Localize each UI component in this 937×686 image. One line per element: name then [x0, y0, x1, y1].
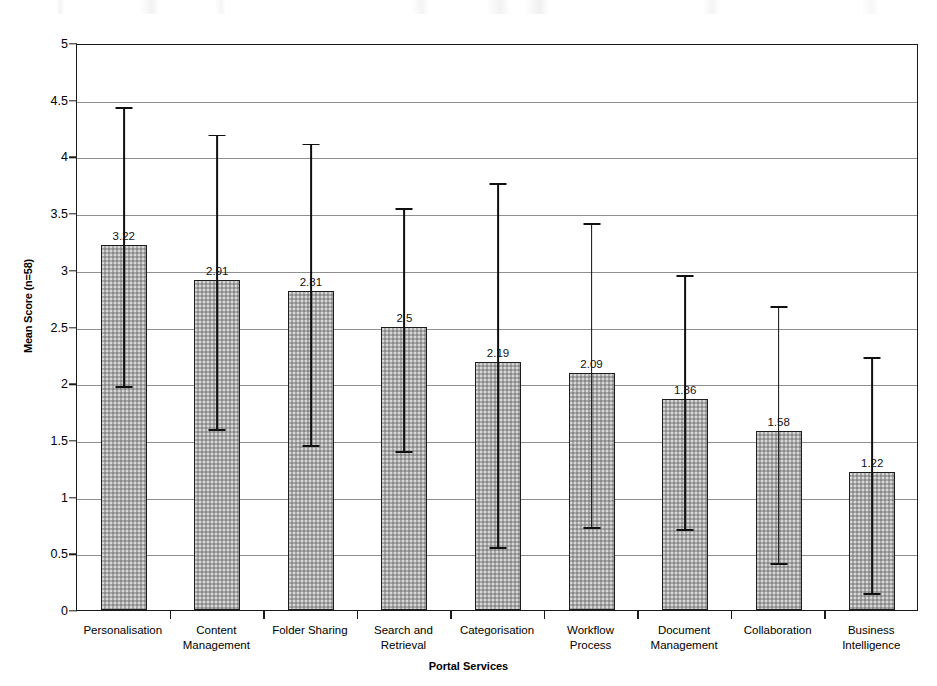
error-bar-cap-upper	[302, 144, 319, 146]
error-bar-cap-lower	[115, 386, 132, 388]
error-bar-cap-upper	[489, 183, 506, 185]
error-bar-cap-lower	[489, 547, 506, 549]
error-bar-cap-upper	[396, 208, 413, 210]
error-bar-cap-upper	[677, 275, 694, 277]
x-axis-tick-label-line: Collaboration	[726, 623, 830, 638]
y-axis-tick-label: 4.5	[22, 94, 68, 108]
x-axis-tick-label: BusinessIntelligence	[819, 623, 923, 652]
scan-artifact	[0, 0, 937, 14]
x-axis-tick-mark	[357, 611, 358, 619]
error-bar-cap-lower	[864, 593, 881, 595]
x-axis-tick-label-line: Document	[632, 623, 736, 638]
error-bar-cap-upper	[864, 357, 881, 359]
bar-value-label: 2.09	[580, 358, 602, 370]
bar-group[interactable]: 2.09	[545, 45, 639, 610]
x-axis-tick-mark	[824, 611, 825, 619]
y-axis-tick-label: 3	[22, 264, 68, 278]
x-axis-tick-label: Categorisation	[445, 623, 549, 638]
bar-value-label: 2.5	[396, 312, 412, 324]
x-axis-tick-label-line: Management	[632, 638, 736, 653]
error-bar-line	[778, 306, 780, 563]
bar-group[interactable]: 2.5	[358, 45, 452, 610]
bar-group[interactable]: 1.86	[638, 45, 732, 610]
y-axis-tick-label: 5	[22, 37, 68, 51]
bar-value-label: 1.58	[767, 416, 789, 428]
x-axis-tick-label-line: Business	[819, 623, 923, 638]
x-axis-tick-label: Personalisation	[71, 623, 175, 638]
y-axis-tick-label: 1.5	[22, 434, 68, 448]
x-axis-tick-label-line: Workflow	[539, 623, 643, 638]
x-axis-tick-mark	[450, 611, 451, 619]
bar-value-label: 1.22	[861, 457, 883, 469]
x-axis-tick-mark	[637, 611, 638, 619]
error-bar-cap-lower	[770, 563, 787, 565]
error-bar-line	[404, 208, 406, 451]
bar-group[interactable]: 2.81	[264, 45, 358, 610]
y-axis-tick-label: 2	[22, 377, 68, 391]
x-axis-tick-label-line: Categorisation	[445, 623, 549, 638]
error-bar-cap-lower	[583, 527, 600, 529]
x-axis-tick-label: DocumentManagement	[632, 623, 736, 652]
x-axis-tick-mark	[263, 611, 264, 619]
bar-value-label: 1.86	[674, 384, 696, 396]
bar-group[interactable]: 2.19	[451, 45, 545, 610]
error-bar-cap-lower	[677, 529, 694, 531]
x-axis-title: Portal Services	[0, 660, 937, 672]
error-bar-line	[684, 275, 686, 529]
error-bar-line	[123, 107, 125, 386]
error-bar-cap-upper	[209, 135, 226, 137]
error-bar-line	[310, 144, 312, 446]
bar-group[interactable]: 3.22	[77, 45, 171, 610]
error-bar-cap-lower	[209, 429, 226, 431]
x-axis-tick-mark	[544, 611, 545, 619]
bar-value-label: 2.19	[487, 347, 509, 359]
bar-chart-figure: Mean Score (n=58) 00.511.522.533.544.55 …	[0, 0, 937, 686]
x-axis-tick-label-line: Management	[164, 638, 268, 653]
x-axis-tick-label-line: Content	[164, 623, 268, 638]
y-axis-tick-label: 0.5	[22, 547, 68, 561]
x-axis-tick-label: Collaboration	[726, 623, 830, 638]
bar-value-label: 2.91	[206, 265, 228, 277]
error-bar-line	[497, 183, 499, 547]
x-axis-tick-label-line: Retrieval	[351, 638, 455, 653]
plot-area: 3.222.912.812.52.192.091.861.581.22	[76, 44, 918, 611]
error-bar-cap-lower	[302, 445, 319, 447]
x-axis-tick-mark	[170, 611, 171, 619]
error-bar-line	[871, 357, 873, 593]
y-axis-tick-label: 1	[22, 491, 68, 505]
x-axis-tick-label-line: Folder Sharing	[258, 623, 362, 638]
x-axis-tick-label: Search andRetrieval	[351, 623, 455, 652]
x-axis-tick-label-line: Process	[539, 638, 643, 653]
x-axis-tick-label-line: Personalisation	[71, 623, 175, 638]
error-bar-line	[591, 223, 593, 527]
error-bar-cap-upper	[115, 107, 132, 109]
bar-group[interactable]: 1.58	[732, 45, 826, 610]
error-bar-cap-upper	[583, 223, 600, 225]
bar-group[interactable]: 2.91	[171, 45, 265, 610]
y-axis-tick-label: 2.5	[22, 321, 68, 335]
bar-group[interactable]: 1.22	[825, 45, 919, 610]
bar-value-label: 2.81	[300, 276, 322, 288]
y-axis-tick-label: 0	[22, 604, 68, 618]
y-axis-tick-label: 3.5	[22, 207, 68, 221]
x-axis-tick-label-line: Intelligence	[819, 638, 923, 653]
x-axis-tick-label: ContentManagement	[164, 623, 268, 652]
x-axis-tick-label: WorkflowProcess	[539, 623, 643, 652]
bar-value-label: 3.22	[113, 230, 135, 242]
x-axis-tick-label-line: Search and	[351, 623, 455, 638]
x-axis-tick-label: Folder Sharing	[258, 623, 362, 638]
y-axis-tick-label: 4	[22, 150, 68, 164]
error-bar-cap-lower	[396, 451, 413, 453]
y-axis-title: Mean Score (n=58)	[22, 226, 34, 386]
error-bar-cap-upper	[770, 306, 787, 308]
error-bar-line	[216, 135, 218, 430]
x-axis-tick-mark	[731, 611, 732, 619]
